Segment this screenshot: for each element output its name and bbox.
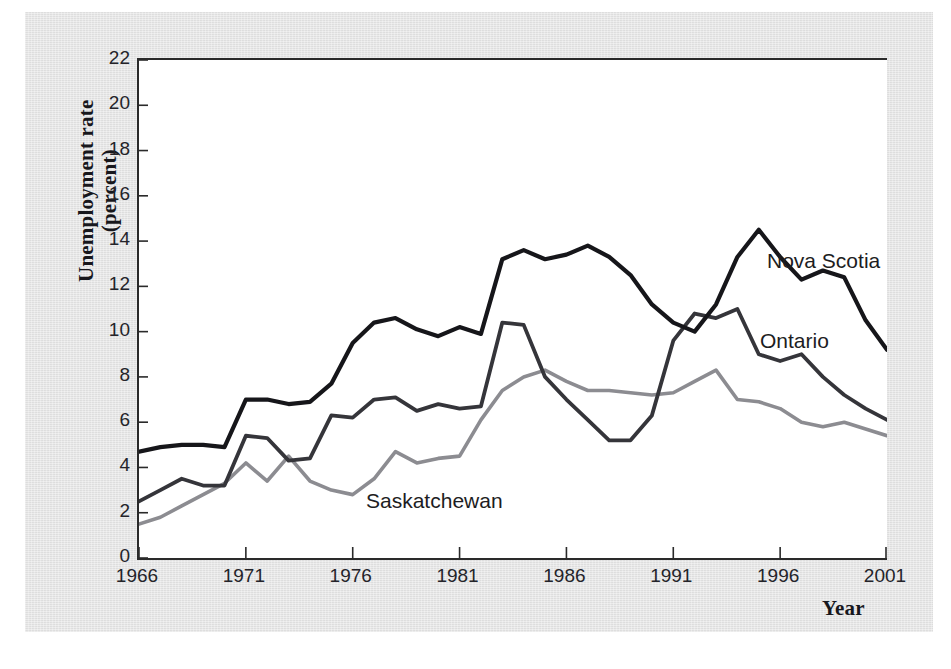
x-tick-label: 1971 xyxy=(209,566,279,585)
x-tick-label: 1991 xyxy=(636,566,706,585)
x-tick-label: 1986 xyxy=(529,566,599,585)
x-tick-label: 1996 xyxy=(743,566,813,585)
figure-root: Unemployment rate (percent) Year 0246810… xyxy=(0,0,951,669)
series-label-nova-scotia: Nova Scotia xyxy=(767,250,880,271)
plot-area xyxy=(137,58,887,560)
x-tick-label: 2001 xyxy=(850,566,920,585)
x-tick-label: 1981 xyxy=(423,566,493,585)
x-tick-label: 1976 xyxy=(316,566,386,585)
series-label-ontario: Ontario xyxy=(760,330,829,351)
series-label-saskatchewan: Saskatchewan xyxy=(366,490,503,511)
series-line-saskatchewan xyxy=(139,370,887,524)
chart-lines-svg xyxy=(139,60,887,560)
x-tick-label: 1966 xyxy=(102,566,172,585)
